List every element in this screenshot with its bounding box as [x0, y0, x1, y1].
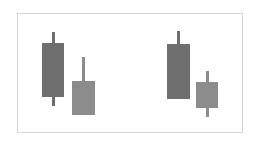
candle-body [167, 44, 190, 99]
candle-body [72, 81, 95, 115]
candle-body [196, 82, 218, 108]
candle-body [42, 43, 64, 97]
